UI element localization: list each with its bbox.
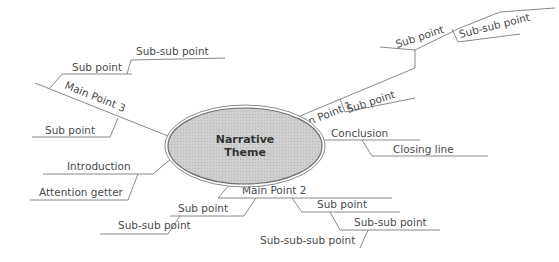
- main-point-3-sub-point-lower[interactable]: Sub point: [45, 124, 95, 136]
- central-node-title-line-2: Theme: [224, 146, 266, 159]
- main-point-2-sub-sub-point-left[interactable]: Sub-sub point: [118, 219, 191, 231]
- main-point-2-sub-point-right[interactable]: Sub point: [317, 198, 367, 210]
- main-point-1-sub-point-upper[interactable]: Sub point: [394, 23, 445, 50]
- closing-line-label[interactable]: Closing line: [393, 143, 454, 155]
- main-point-2-sub-sub-sub-point[interactable]: Sub-sub-sub point: [260, 234, 355, 246]
- central-node-title-line-1: Narrative: [216, 133, 275, 146]
- introduction-label[interactable]: Introduction: [67, 160, 131, 172]
- branch-conclusion: Conclusion Closing line: [322, 127, 488, 156]
- main-point-3-sub-sub-point[interactable]: Sub-sub point: [136, 45, 209, 57]
- main-point-1-sub-sub-point[interactable]: Sub-sub point: [458, 11, 531, 40]
- central-node[interactable]: Narrative Theme: [165, 105, 325, 187]
- mind-map-canvas: Main Point 1 Sub point Sub point Sub-sub…: [0, 0, 559, 262]
- conclusion-label[interactable]: Conclusion: [331, 127, 388, 139]
- branch-introduction: Introduction Attention getter: [30, 158, 172, 200]
- mind-map-diagram: Main Point 1 Sub point Sub point Sub-sub…: [0, 0, 559, 262]
- main-point-3-sub-point-upper[interactable]: Sub point: [72, 61, 122, 73]
- main-point-2-sub-point-left[interactable]: Sub point: [178, 202, 228, 214]
- branch-main-point-1: Main Point 1 Sub point Sub point Sub-sub…: [289, 8, 555, 134]
- main-point-1-sub-point-lower[interactable]: Sub point: [345, 88, 396, 115]
- attention-getter-label[interactable]: Attention getter: [39, 186, 124, 198]
- main-point-2-sub-sub-point-right[interactable]: Sub-sub point: [354, 216, 427, 228]
- main-point-3-label[interactable]: Main Point 3: [63, 79, 127, 114]
- branch-main-point-2: Main Point 2 Sub point Sub-sub point Sub…: [100, 184, 440, 248]
